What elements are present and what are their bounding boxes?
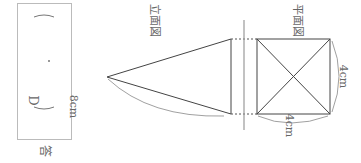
diagram-canvas <box>0 0 361 163</box>
slant-length-label: 8cm <box>67 95 80 119</box>
answer-label: 答 <box>38 145 55 157</box>
plan-view-square <box>257 39 330 114</box>
plan-view-title: 平面図 <box>291 4 307 37</box>
slant-dimension-arc <box>108 79 224 116</box>
front-view-title: 立面図 <box>148 4 164 37</box>
front-view-triangle <box>107 39 231 114</box>
answer-choice-prefix: D <box>26 95 41 105</box>
answer-dot <box>48 60 50 62</box>
right-side-label: 4cm <box>337 65 350 89</box>
paren-arc-top <box>34 15 54 17</box>
bottom-side-label: 4cm <box>283 114 296 138</box>
paren-arc-bottom <box>34 107 54 109</box>
